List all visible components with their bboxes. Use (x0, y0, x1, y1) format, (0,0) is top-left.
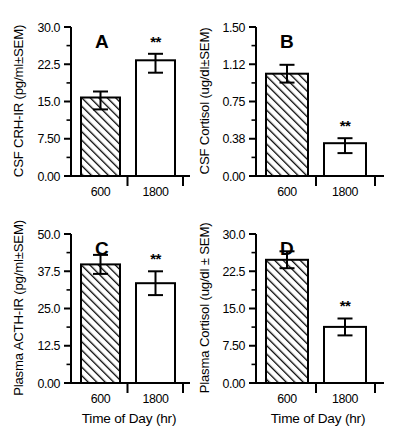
y-tick-label-b-1: 0.38 (222, 132, 245, 146)
panel-b: 0.00 0.38 0.75 1.12 1.50 CSF Cortisol (u… (198, 0, 396, 218)
bar-b-600 (266, 74, 308, 176)
x-tick-label-b-1: 1800 (332, 185, 358, 199)
y-tick-label-d-2: 15.0 (222, 302, 245, 316)
significance-marker-c-1800: ** (150, 250, 161, 267)
y-tick-label-b-3: 1.12 (222, 58, 245, 72)
y-tick-label-a-0: 0.00 (37, 170, 60, 184)
y-major-ticks-d (249, 234, 256, 383)
y-axis-title-a: CSF CRH-IR (pg/ml±SEM) (11, 25, 26, 177)
y-tick-label-d-1: 7.50 (222, 339, 245, 353)
bar-d-600 (266, 260, 308, 383)
x-tick-label-c-1: 1800 (143, 392, 169, 406)
significance-marker-b-1800: ** (340, 117, 351, 134)
x-tick-label-b-0: 600 (277, 185, 297, 199)
significance-marker-a-1800: ** (150, 33, 161, 50)
y-tick-label-a-1: 7.50 (37, 132, 60, 146)
y-tick-label-b-0: 0.00 (222, 170, 245, 184)
bar-c-1800 (136, 283, 175, 383)
y-tick-label-a-3: 22.5 (37, 58, 60, 72)
y-major-ticks-c (64, 234, 71, 383)
x-tick-label-d-1: 1800 (332, 392, 358, 406)
y-axis-title-c: Plasma ACTH-IR (pg/ml±SEM) (11, 220, 26, 396)
panel-a: 0.00 7.50 15.0 22.5 30.0 CSF CRH-IR (pg/… (0, 0, 198, 218)
bar-c-600 (81, 264, 120, 383)
y-tick-label-a-2: 15.0 (37, 95, 60, 109)
y-tick-label-d-3: 22.5 (222, 265, 245, 279)
y-tick-label-c-0: 0.00 (37, 377, 60, 391)
x-tick-label-a-0: 600 (91, 185, 111, 199)
y-tick-label-d-4: 30.0 (222, 228, 245, 242)
x-tick-label-c-0: 600 (91, 392, 111, 406)
figure-root: 0.00 7.50 15.0 22.5 30.0 CSF CRH-IR (pg/… (0, 0, 396, 437)
panel-letter-b: B (280, 31, 294, 52)
y-axis-title-b: CSF Cortisol (ug/dl±SEM) (198, 28, 212, 175)
y-tick-label-c-3: 37.5 (37, 265, 60, 279)
y-tick-label-c-2: 25.0 (37, 302, 60, 316)
y-tick-label-b-2: 0.75 (222, 95, 245, 109)
y-axis-title-d: Plasma Cortisol (ug/dl ± SEM) (198, 223, 212, 394)
y-major-ticks-a (64, 27, 71, 176)
panel-letter-a: A (95, 31, 109, 52)
y-tick-label-d-0: 0.00 (222, 377, 245, 391)
x-axis-title-c: Time of Day (hr) (82, 411, 177, 426)
panel-c: 0.00 12.5 25.0 37.5 50.0 Plasma ACTH-IR … (0, 210, 198, 437)
y-tick-label-c-4: 50.0 (37, 228, 60, 242)
bar-a-1800 (136, 60, 175, 176)
y-tick-label-c-1: 12.5 (37, 339, 60, 353)
x-axis-title-d: Time of Day (hr) (271, 411, 366, 426)
x-tick-label-d-0: 600 (277, 392, 297, 406)
panel-d: 0.00 7.50 15.0 22.5 30.0 Plasma Cortisol… (198, 210, 396, 437)
x-tick-label-a-1: 1800 (143, 185, 169, 199)
y-major-ticks-b (249, 27, 256, 176)
y-tick-label-b-4: 1.50 (222, 21, 245, 35)
y-tick-label-a-4: 30.0 (37, 21, 60, 35)
significance-marker-d-1800: ** (340, 297, 351, 314)
